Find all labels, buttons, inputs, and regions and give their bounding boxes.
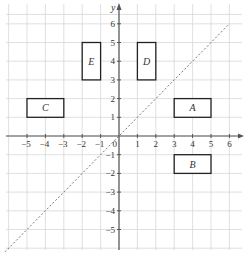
y-tick-label: −5 — [105, 225, 115, 235]
rectangle-b: B — [174, 155, 211, 174]
x-tick-label: −5 — [21, 139, 31, 149]
shape-label: C — [42, 102, 49, 113]
y-tick-label: 1 — [111, 112, 116, 122]
x-tick-label: 3 — [172, 139, 177, 149]
shape-label: E — [87, 56, 94, 67]
y-tick-label: −3 — [105, 187, 115, 197]
rectangle-c: C — [27, 99, 64, 118]
rectangle-e: E — [82, 43, 100, 80]
y-tick-label: 2 — [111, 94, 116, 104]
grid-lines — [6, 4, 242, 250]
coordinate-diagram: y −5−4−3−2−1123456−5−4−3−2−11234560 ABCD… — [0, 0, 245, 257]
shape-label: D — [142, 56, 151, 67]
y-axis-arrow-icon — [117, 3, 122, 10]
rectangle-a: A — [174, 99, 211, 118]
y-tick-label: 4 — [111, 56, 116, 66]
tick-labels: −5−4−3−2−1123456−5−4−3−2−11234560 — [21, 19, 232, 235]
y-tick-label: −4 — [105, 206, 115, 216]
x-tick-label: −4 — [40, 139, 50, 149]
y-tick-label: −1 — [105, 150, 115, 160]
x-axis-arrow-icon — [238, 134, 244, 139]
rectangle-d: D — [137, 43, 155, 80]
x-tick-label: 4 — [190, 139, 195, 149]
dotted-line-y-equals-x — [5, 24, 229, 252]
axes: y — [6, 2, 244, 250]
y-tick-label: 6 — [111, 19, 116, 29]
x-tick-label: −3 — [58, 139, 68, 149]
shape-label: A — [189, 102, 197, 113]
y-tick-label: 3 — [111, 75, 116, 85]
y-tick-label: −2 — [105, 168, 115, 178]
x-tick-label: 1 — [135, 139, 140, 149]
y-tick-label: 5 — [111, 38, 116, 48]
x-tick-label: 2 — [154, 139, 159, 149]
x-tick-label: 5 — [209, 139, 214, 149]
shape-label: B — [190, 159, 196, 170]
x-tick-label: 6 — [227, 139, 232, 149]
x-tick-label: −1 — [95, 139, 105, 149]
y-axis-label: y — [110, 2, 116, 13]
x-tick-label: −2 — [76, 139, 86, 149]
